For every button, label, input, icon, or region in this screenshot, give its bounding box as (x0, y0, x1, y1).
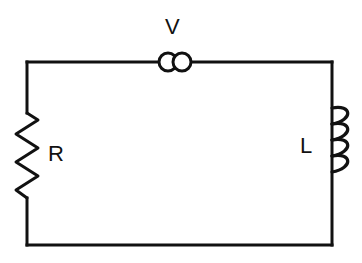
inductor-label: L (300, 135, 312, 157)
inductor-loop-2 (332, 123, 348, 140)
circuit-diagram-canvas: V R L (0, 0, 362, 263)
resistor-symbol (16, 113, 38, 198)
inductor-loop-1 (332, 107, 348, 124)
inductor-loop-4 (332, 155, 348, 172)
voltage-source-circle-right (173, 53, 191, 71)
inductor-loop-3 (332, 139, 348, 156)
circuit-schematic (0, 0, 362, 263)
voltage-source-label: V (165, 16, 180, 38)
resistor-label: R (48, 143, 64, 165)
